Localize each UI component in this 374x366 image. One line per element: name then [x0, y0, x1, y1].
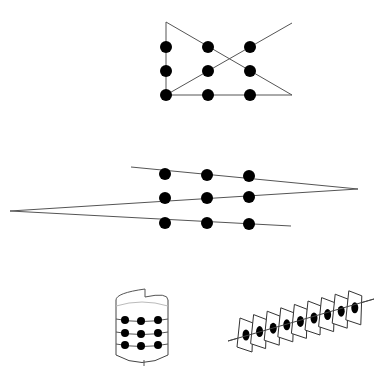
figure-four-line-solution [160, 22, 292, 101]
dot [160, 65, 172, 77]
dot [243, 218, 255, 230]
cylinder-top-rim [145, 295, 168, 300]
dot [201, 217, 213, 229]
dot [137, 330, 145, 338]
dot [243, 170, 255, 182]
dot [244, 65, 256, 77]
dot [137, 317, 145, 325]
dot [243, 191, 255, 203]
dot [324, 309, 331, 320]
dot [160, 41, 172, 53]
dot [244, 89, 256, 101]
figure-cylinder-spiral-solution [116, 289, 168, 366]
dot [201, 192, 213, 204]
solution-line [166, 22, 292, 95]
dot [159, 217, 171, 229]
dot [121, 316, 129, 324]
dot [297, 316, 304, 327]
dot [202, 41, 214, 53]
nine-dots-puzzle-diagram [0, 0, 374, 366]
dot [159, 192, 171, 204]
dot [159, 168, 171, 180]
dot [154, 341, 162, 349]
paper-flap [116, 289, 145, 300]
dot [154, 329, 162, 337]
dot [137, 342, 145, 350]
dot [154, 316, 162, 324]
solution-line [10, 167, 358, 226]
dot [202, 65, 214, 77]
dot [311, 313, 318, 324]
dot [202, 89, 214, 101]
dot [121, 329, 129, 337]
dot [201, 169, 213, 181]
figure-folded-panels-single-line-solution [228, 291, 374, 352]
dot [160, 89, 172, 101]
figure-three-line-zigzag-solution [10, 167, 358, 230]
dot [121, 341, 129, 349]
dot [244, 41, 256, 53]
